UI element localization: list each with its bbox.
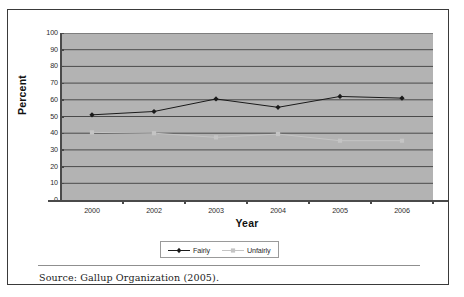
data-point-unfairly-2006 — [400, 139, 404, 143]
y-tick-mark — [60, 116, 64, 118]
legend-entry-fairly[interactable]: Fairly — [168, 243, 210, 257]
y-tick-mark — [60, 183, 64, 185]
x-tick-mark — [370, 200, 372, 204]
x-axis-line — [48, 200, 448, 202]
x-tick-mark — [246, 200, 248, 204]
y-tick-label: 40 — [36, 129, 58, 137]
data-point-fairly-2003 — [213, 96, 218, 101]
figure-container: 0102030405060708090100 Percent 200020022… — [0, 0, 464, 297]
y-tick-label: 70 — [36, 79, 58, 87]
y-tick-mark — [60, 66, 64, 68]
source-divider — [38, 265, 420, 266]
figure-frame: 0102030405060708090100 Percent 200020022… — [7, 9, 449, 285]
series-line-fairly — [92, 96, 402, 114]
y-tick-mark — [60, 200, 64, 202]
y-tick-mark — [60, 33, 64, 35]
y-tick-label: 30 — [36, 146, 58, 154]
legend-swatch-square-icon — [222, 246, 244, 255]
y-tick-mark — [60, 149, 64, 151]
data-point-unfairly-2005 — [338, 139, 342, 143]
legend-label: Unfairly — [247, 246, 271, 255]
chart-area: 0102030405060708090100 Percent 200020022… — [8, 10, 448, 262]
y-tick-mark — [60, 83, 64, 85]
x-tick-label: 2002 — [134, 206, 174, 215]
data-point-unfairly-2000 — [90, 130, 94, 134]
plot-svg — [61, 33, 433, 200]
y-tick-label: 20 — [36, 163, 58, 171]
y-tick-label: 10 — [36, 179, 58, 187]
y-tick-label: 90 — [36, 46, 58, 54]
y-tick-label: 60 — [36, 96, 58, 104]
y-tick-label: 100 — [36, 29, 58, 37]
x-tick-mark — [308, 200, 310, 204]
legend-entry-unfairly[interactable]: Unfairly — [222, 243, 271, 257]
x-axis-title: Year — [61, 217, 433, 229]
y-tick-mark — [60, 99, 64, 101]
y-tick-label: 50 — [36, 113, 58, 121]
x-tick-mark — [432, 200, 434, 204]
chart-legend: FairlyUnfairly — [160, 241, 279, 258]
x-tick-mark — [184, 200, 186, 204]
data-point-fairly-2004 — [275, 105, 280, 110]
x-tick-label: 2006 — [382, 206, 422, 215]
data-point-fairly-2005 — [337, 94, 342, 99]
data-point-unfairly-2004 — [276, 132, 280, 136]
y-tick-mark — [60, 49, 64, 51]
plot-panel — [61, 33, 433, 200]
data-point-unfairly-2002 — [152, 131, 156, 135]
gridlines — [61, 33, 433, 183]
x-tick-label: 2004 — [258, 206, 298, 215]
x-tick-label: 2003 — [196, 206, 236, 215]
source-note: Source: Gallup Organization (2005). — [39, 272, 219, 283]
y-tick-mark — [60, 166, 64, 168]
y-tick-mark — [60, 133, 64, 135]
data-point-unfairly-2003 — [214, 135, 218, 139]
y-axis-title: Percent — [16, 55, 28, 135]
data-point-fairly-2002 — [151, 109, 156, 114]
x-tick-mark — [122, 200, 124, 204]
series-layer — [89, 94, 404, 143]
legend-label: Fairly — [193, 246, 210, 255]
legend-swatch-diamond-icon — [168, 246, 190, 255]
y-axis-ticks: 0102030405060708090100 — [32, 10, 58, 262]
x-tick-label: 2000 — [72, 206, 112, 215]
y-tick-label: 80 — [36, 62, 58, 70]
x-tick-label: 2005 — [320, 206, 360, 215]
